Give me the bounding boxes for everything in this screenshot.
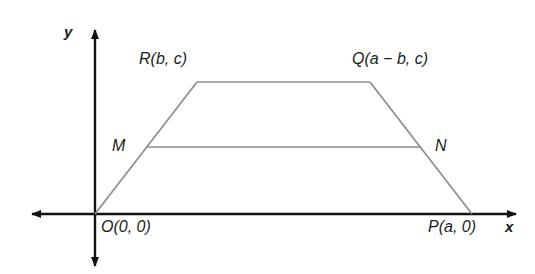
segment-QP <box>370 82 472 214</box>
segment-OR <box>95 82 197 214</box>
vertex-label-m: M <box>112 138 125 154</box>
x-axis-label: x <box>505 219 513 234</box>
vertex-label-q: Q(a − b, c) <box>352 51 428 67</box>
vertex-label-p: P(a, 0) <box>428 219 476 235</box>
y-axis-label: y <box>64 24 72 39</box>
coordinate-geometry-figure: y x O(0, 0) P(a, 0) Q(a − b, c) R(b, c) … <box>0 0 535 274</box>
vertex-label-origin: O(0, 0) <box>101 219 151 235</box>
vertex-label-n: N <box>435 138 447 154</box>
vertex-label-r: R(b, c) <box>139 51 187 67</box>
